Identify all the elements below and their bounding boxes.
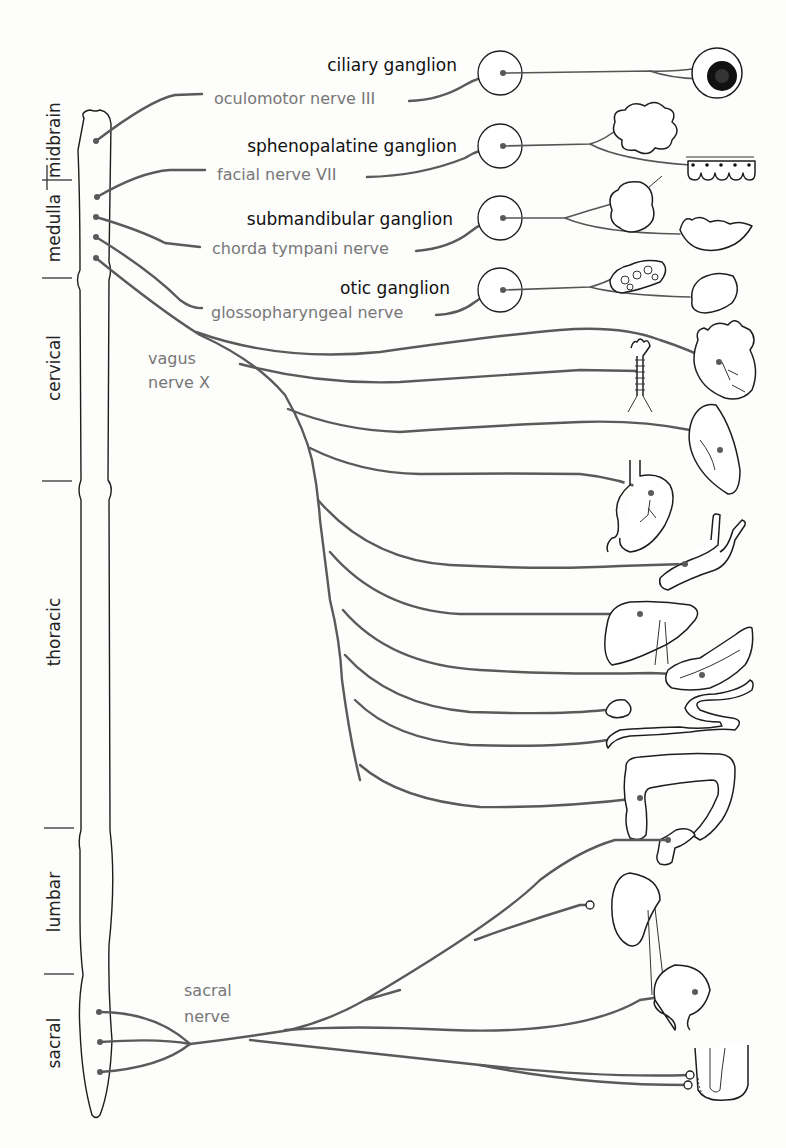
label-vagus-line1: vagus bbox=[148, 349, 196, 368]
chorda-tympani-nerve bbox=[96, 217, 200, 247]
vagus-branch-large-intestine bbox=[360, 765, 640, 807]
sacral-branch-bladder bbox=[285, 992, 695, 1031]
parotid-gland-icon bbox=[610, 261, 666, 293]
label-chorda-tympani-nerve: chorda tympani nerve bbox=[212, 239, 389, 258]
label-vagus-line2: nerve X bbox=[148, 373, 210, 392]
sublingual-gland-icon bbox=[680, 217, 752, 250]
label-facial-nerve: facial nerve VII bbox=[217, 165, 336, 184]
blood-vessels-icon bbox=[660, 514, 746, 590]
rectum-icon bbox=[657, 829, 695, 865]
label-otic-ganglion: otic ganglion bbox=[340, 278, 450, 298]
label-submandibular-ganglion: submandibular ganglion bbox=[247, 209, 453, 229]
vagus-branch-small-intestine bbox=[355, 700, 608, 746]
parasympathetic-diagram: midbrain medulla cervical thoracic lumba… bbox=[0, 0, 786, 1148]
eye-icon bbox=[692, 48, 742, 98]
region-label-sacral: sacral bbox=[44, 1018, 64, 1069]
vagus-branch-gallbladder bbox=[345, 655, 605, 713]
region-label-thoracic: thoracic bbox=[44, 598, 64, 667]
label-sphenopalatine-ganglion: sphenopalatine ganglion bbox=[247, 136, 457, 156]
glossopharyngeal-nerve bbox=[96, 237, 202, 308]
spinal-cord-outline bbox=[78, 110, 113, 1118]
region-label-medulla: medulla bbox=[44, 194, 64, 262]
heart-icon bbox=[694, 321, 756, 399]
region-label-cervical: cervical bbox=[44, 335, 64, 401]
trachea-icon bbox=[628, 339, 652, 412]
region-label-midbrain: midbrain bbox=[44, 102, 64, 178]
label-sacral-nerve-line2: nerve bbox=[184, 1007, 230, 1026]
label-oculomotor-nerve: oculomotor nerve III bbox=[214, 89, 375, 108]
oral-mucosa-icon bbox=[692, 273, 738, 313]
label-glossopharyngeal-nerve: glossopharyngeal nerve bbox=[211, 303, 403, 322]
vagus-branch-lung bbox=[288, 409, 722, 450]
vagus-branch-stomach bbox=[310, 448, 652, 493]
genitals-icon bbox=[684, 1045, 748, 1100]
sacral-branch-genitals bbox=[250, 1040, 690, 1076]
lacrimal-gland-icon bbox=[614, 102, 677, 153]
vagus-branch-trachea bbox=[240, 364, 640, 382]
bladder-icon bbox=[654, 965, 710, 1030]
stomach-icon bbox=[607, 460, 673, 552]
lung-icon bbox=[689, 405, 740, 494]
gallbladder-icon bbox=[606, 700, 631, 718]
facial-nerve bbox=[97, 170, 205, 197]
label-ciliary-ganglion: ciliary ganglion bbox=[327, 55, 457, 75]
kidney-icon bbox=[586, 873, 665, 995]
nasal-mucosa-icon bbox=[686, 157, 755, 180]
oculomotor-nerve bbox=[96, 94, 202, 141]
submandibular-gland-icon bbox=[610, 182, 654, 232]
sacral-root-2 bbox=[100, 1040, 190, 1044]
large-intestine-icon bbox=[624, 753, 735, 840]
label-sacral-nerve-line1: sacral bbox=[184, 981, 232, 1000]
liver-icon bbox=[605, 601, 698, 665]
vagus-branch-liver bbox=[330, 552, 640, 614]
sacral-root-3 bbox=[100, 1044, 190, 1072]
vagus-nerve-trunk bbox=[96, 258, 360, 780]
sacral-branch-kidney bbox=[475, 905, 590, 940]
region-label-lumbar: lumbar bbox=[44, 872, 64, 932]
cranial-nerve-origins bbox=[93, 138, 100, 261]
sacral-root-1 bbox=[99, 1012, 190, 1044]
